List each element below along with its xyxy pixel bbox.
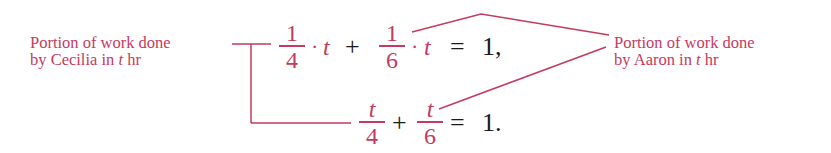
equation-2-rhs: 1. [482,110,502,136]
fraction-one-fourth: 1 4 [279,22,305,71]
multiply-dot: · [311,36,318,58]
plus-sign: + [392,110,407,136]
cecilia-work-label: Portion of work done by Cecilia in t hr [30,34,171,68]
equation-1-rhs: 1, [482,34,502,60]
aaron-work-label: Portion of work done by Aaron in t hr [614,34,755,68]
cecilia-label-line2: by Cecilia in t hr [30,51,171,68]
right-connector-upper [412,14,609,35]
fraction-t-over-6: t 6 [417,98,443,147]
multiply-dot: · [411,36,418,58]
cecilia-label-line1: Portion of work done [30,34,171,51]
variable-t: t [424,36,431,58]
aaron-label-line2: by Aaron in t hr [614,51,755,68]
variable-t: t [323,36,330,58]
plus-sign: + [345,34,360,60]
fraction-t-over-4: t 4 [359,98,385,147]
equals-sign: = [450,34,465,60]
fraction-one-sixth: 1 6 [379,22,405,71]
aaron-label-line1: Portion of work done [614,34,755,51]
annotation-connectors [0,0,831,153]
equals-sign: = [450,110,465,136]
